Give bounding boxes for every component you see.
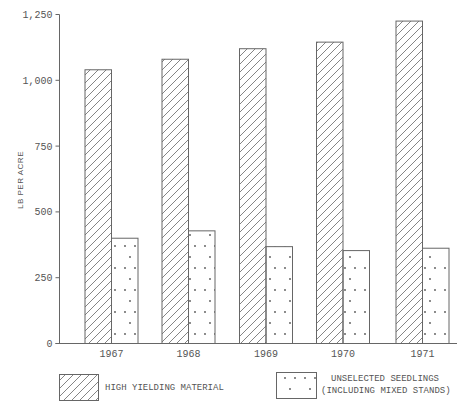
y-tick-label: 1,250 <box>22 10 52 21</box>
y-axis: 02505007501,0001,250 <box>22 10 59 350</box>
x-tick-label: 1968 <box>176 349 200 360</box>
bars <box>85 21 449 343</box>
y-tick-label: 500 <box>34 207 52 218</box>
x-axis: 19671968196919701971 <box>56 344 458 360</box>
y-tick-label: 750 <box>34 142 52 153</box>
legend-item-high-yielding: HIGH YIELDING MATERIAL <box>60 375 224 401</box>
x-tick-label: 1971 <box>410 349 434 360</box>
legend-label-high-yielding: HIGH YIELDING MATERIAL <box>105 383 224 393</box>
bar-unselected-1970 <box>343 251 370 344</box>
y-tick-label: 0 <box>46 339 52 350</box>
x-tick-label: 1970 <box>331 349 355 360</box>
y-tick-label: 1,000 <box>22 76 52 87</box>
bar-unselected-1967 <box>112 238 139 343</box>
legend-label-unselected-line2: (INCLUDING MIXED STANDS) <box>321 386 451 396</box>
bar-unselected-1969 <box>266 247 293 344</box>
bar-high-yielding-1971 <box>396 21 423 343</box>
legend-swatch-dots <box>277 373 317 399</box>
legend-item-unselected: UNSELECTED SEEDLINGS (INCLUDING MIXED ST… <box>277 373 451 399</box>
bar-high-yielding-1969 <box>240 49 267 344</box>
bar-high-yielding-1968 <box>162 59 189 343</box>
bar-chart: LB PER ACRE 02505007501,0001,250 1967196… <box>0 0 469 411</box>
bar-unselected-1968 <box>189 231 216 344</box>
y-tick-label: 250 <box>34 273 52 284</box>
x-tick-label: 1967 <box>99 349 123 360</box>
bar-unselected-1971 <box>423 248 450 343</box>
legend-label-unselected-line1: UNSELECTED SEEDLINGS <box>331 374 439 384</box>
legend-swatch-hatch <box>60 375 99 401</box>
bar-high-yielding-1967 <box>85 70 112 344</box>
y-axis-title: LB PER ACRE <box>16 151 25 209</box>
bar-high-yielding-1970 <box>317 42 344 343</box>
x-tick-label: 1969 <box>254 349 278 360</box>
legend: HIGH YIELDING MATERIAL UNSELECTED SEEDLI… <box>60 373 451 401</box>
